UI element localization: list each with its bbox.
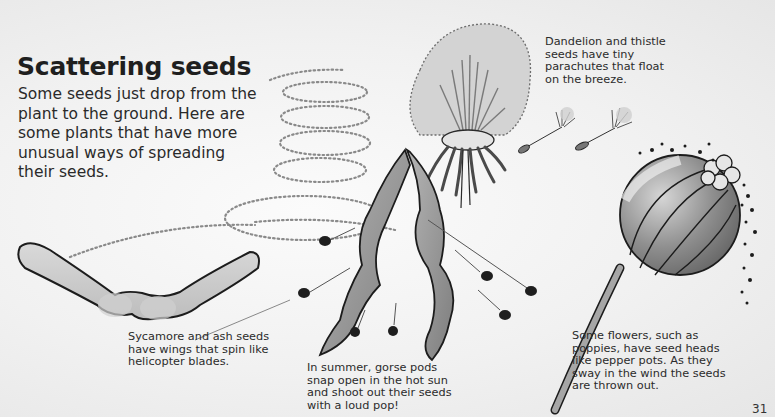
parachute-seed-1 — [517, 107, 575, 155]
page-title: Scattering seeds — [17, 52, 251, 81]
book-page: Scattering seeds Some seeds just drop fr… — [0, 0, 775, 417]
caption-poppy: Some flowers, such as poppies, have seed… — [572, 330, 772, 393]
sycamore-seed — [18, 243, 259, 320]
gorse-pods — [320, 150, 453, 360]
intro-paragraph: Some seeds just drop from the plant to t… — [18, 85, 258, 183]
parachute-seed-2 — [574, 107, 632, 152]
caption-gorse: In summer, gorse pods snap open in the h… — [307, 362, 507, 412]
caption-sycamore: Sycamore and ash seeds have wings that s… — [128, 331, 298, 369]
caption-dandelion: Dandelion and thistle seeds have tiny pa… — [545, 36, 745, 86]
page-number: 31 — [752, 402, 767, 416]
